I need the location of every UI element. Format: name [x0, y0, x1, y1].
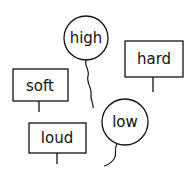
balloon-string — [86, 60, 94, 108]
word-picture-canvas: high hard soft low loud — [0, 0, 194, 176]
balloon-low: low — [102, 99, 148, 166]
sign-soft: soft — [13, 69, 68, 112]
sign-word-loud: loud — [41, 129, 73, 147]
balloon-word-low: low — [112, 113, 138, 131]
balloon-string — [104, 144, 117, 166]
sign-loud: loud — [29, 123, 86, 164]
sign-word-soft: soft — [26, 77, 54, 95]
balloon-high: high — [64, 16, 108, 108]
balloon-word-high: high — [70, 29, 103, 47]
sign-word-hard: hard — [137, 50, 171, 68]
sign-hard: hard — [125, 41, 183, 92]
